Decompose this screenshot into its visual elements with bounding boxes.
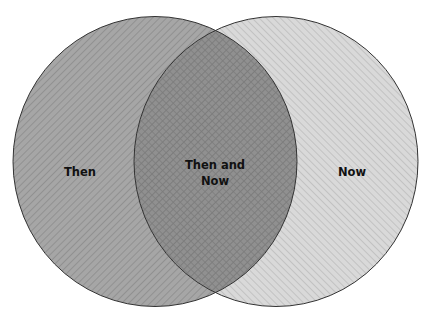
- then-label: Then: [64, 164, 96, 180]
- now-label: Now: [338, 164, 366, 180]
- then-and-now-label: Then and Now: [180, 157, 250, 189]
